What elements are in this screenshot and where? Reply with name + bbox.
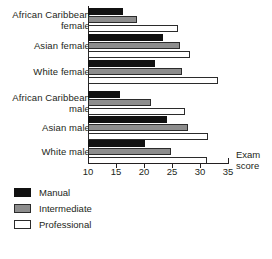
legend: ManualIntermediateProfessional <box>14 184 92 232</box>
category-label: African Caribbean male <box>12 92 90 114</box>
bar <box>88 77 218 84</box>
exam-score-bar-chart: African Caribbean femaleAsian femaleWhit… <box>0 0 272 259</box>
legend-swatch-icon <box>14 220 31 229</box>
axis-tick-label: 25 <box>167 166 178 177</box>
legend-item: Professional <box>14 216 92 232</box>
bar <box>88 42 180 49</box>
legend-swatch-icon <box>14 188 31 197</box>
bar <box>88 68 182 75</box>
legend-item: Manual <box>14 184 92 200</box>
bar <box>88 133 208 140</box>
legend-item: Intermediate <box>14 200 92 216</box>
x-axis-line <box>88 163 229 164</box>
plot-area: African Caribbean femaleAsian femaleWhit… <box>0 0 272 172</box>
axis-tick-label: 35 <box>223 166 234 177</box>
legend-label: Manual <box>39 187 70 198</box>
bar <box>88 91 120 98</box>
bar <box>88 60 155 67</box>
bar <box>88 124 188 131</box>
axis-tick <box>88 158 89 163</box>
category-label: White male <box>41 146 90 157</box>
bar <box>88 140 145 147</box>
category-label: African Caribbean female <box>12 9 90 31</box>
legend-swatch-icon <box>14 204 31 213</box>
axis-tick-label: 20 <box>139 166 150 177</box>
legend-label: Intermediate <box>39 203 92 214</box>
bar <box>88 25 178 32</box>
axis-tick-label: 30 <box>195 166 206 177</box>
bar <box>88 99 151 106</box>
legend-label: Professional <box>39 219 91 230</box>
category-label: White female <box>33 66 90 77</box>
bar <box>88 108 185 115</box>
axis-tick <box>228 158 229 163</box>
bar <box>88 148 171 155</box>
bar <box>88 51 190 58</box>
bar <box>88 8 123 15</box>
bar <box>88 16 137 23</box>
bar <box>88 34 163 41</box>
category-label: Asian female <box>34 40 90 51</box>
x-axis-title: Exam score <box>236 149 260 171</box>
bar <box>88 116 167 123</box>
axis-tick-label: 10 <box>83 166 94 177</box>
axis-tick-label: 15 <box>111 166 122 177</box>
category-label: Asian male <box>42 122 90 133</box>
